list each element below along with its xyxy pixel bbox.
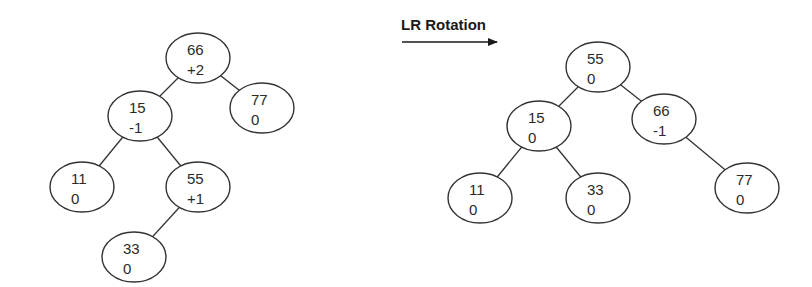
node-key: 11: [469, 181, 485, 198]
node-key: 55: [187, 170, 204, 187]
edges-layer: [82, 58, 747, 257]
node-balance-factor: 0: [251, 111, 259, 128]
tree-node-after-15: 150: [507, 101, 571, 151]
node-key: 66: [187, 41, 204, 58]
node-key: 33: [587, 181, 604, 198]
avl-rotation-diagram: 66+215-177011055+133055015066-1110330770…: [0, 0, 812, 287]
node-balance-factor: -1: [653, 122, 666, 139]
node-balance-factor: 0: [71, 190, 79, 207]
node-balance-factor: 0: [469, 201, 477, 218]
node-balance-factor: 0: [587, 201, 595, 218]
tree-node-before-77: 770: [230, 83, 294, 133]
node-key: 15: [528, 109, 545, 126]
tree-node-after-11: 110: [448, 173, 512, 223]
node-key: 33: [123, 240, 140, 257]
tree-node-after-55: 550: [566, 42, 630, 92]
rotation-label: LR Rotation: [401, 16, 486, 33]
node-balance-factor: +2: [187, 61, 204, 78]
node-key: 55: [587, 50, 604, 67]
node-key: 15: [129, 99, 146, 116]
node-balance-factor: 0: [736, 191, 744, 208]
node-key: 77: [251, 91, 268, 108]
tree-node-before-15: 15-1: [108, 91, 172, 141]
node-key: 66: [653, 102, 670, 119]
tree-node-before-33: 330: [102, 232, 166, 282]
node-balance-factor: 0: [528, 129, 536, 146]
tree-node-after-33: 330: [566, 173, 630, 223]
tree-node-after-66: 66-1: [632, 94, 696, 144]
tree-node-after-77: 770: [715, 163, 779, 213]
node-key: 11: [71, 170, 87, 187]
tree-node-before-55: 55+1: [166, 162, 230, 212]
tree-node-before-66: 66+2: [166, 33, 230, 83]
node-balance-factor: 0: [587, 70, 595, 87]
nodes-layer: 66+215-177011055+133055015066-1110330770: [50, 33, 779, 282]
node-balance-factor: +1: [187, 190, 204, 207]
tree-node-before-11: 110: [50, 162, 114, 212]
node-key: 77: [736, 171, 753, 188]
node-balance-factor: -1: [129, 119, 142, 136]
node-balance-factor: 0: [123, 260, 131, 277]
